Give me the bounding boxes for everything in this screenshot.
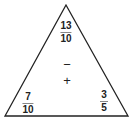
minus-sign: − <box>63 58 71 71</box>
bottom-right-numerator: 3 <box>101 90 107 100</box>
bottom-left-fraction: 7 10 <box>22 92 33 115</box>
bottom-right-fraction: 3 5 <box>100 90 108 113</box>
plus-sign: + <box>63 74 71 87</box>
bottom-left-numerator: 7 <box>25 92 31 102</box>
top-fraction: 13 10 <box>60 21 71 44</box>
bottom-left-denominator: 10 <box>22 105 33 115</box>
bottom-right-denominator: 5 <box>101 103 107 113</box>
top-numerator: 13 <box>60 21 71 31</box>
top-denominator: 10 <box>60 34 71 44</box>
